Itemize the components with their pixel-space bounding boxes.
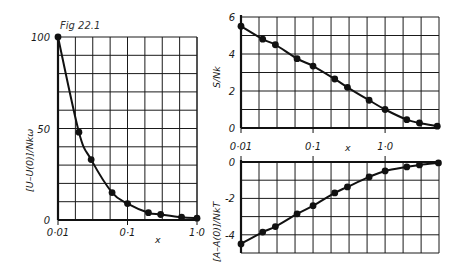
- energy-xlabel: x: [154, 234, 161, 245]
- free-energy-point-3: [294, 210, 301, 217]
- entropy-ytick-label: 6: [229, 12, 235, 23]
- energy-xtick-label: 0·01: [47, 227, 69, 238]
- free-energy-point-6: [344, 184, 351, 191]
- entropy-point-5: [331, 76, 338, 83]
- free-energy-point-5: [331, 190, 338, 197]
- entropy-points: [238, 23, 441, 130]
- entropy-point-3: [294, 55, 301, 62]
- entropy-curve-group: [241, 26, 437, 126]
- entropy-curve: [241, 26, 437, 126]
- entropy-ylabel: S/Nk: [211, 66, 222, 88]
- entropy-ytick-label: 0: [229, 123, 235, 134]
- energy-xtick-label: 1·0: [189, 227, 205, 238]
- energy-ylabel: [U–U(0)]/Nkω: [24, 129, 35, 192]
- free-energy-points: [238, 160, 442, 248]
- free-energy-ytick-label: 0: [229, 157, 235, 168]
- free-energy-point-7: [366, 174, 373, 181]
- entropy-xtick-label: 1·0: [377, 141, 393, 152]
- energy-point-5: [145, 209, 152, 216]
- free-energy-point-4: [310, 202, 317, 209]
- energy-point-2: [88, 156, 95, 163]
- free-energy-curve: [241, 163, 438, 244]
- free-energy-grid: [241, 160, 439, 253]
- entropy-point-11: [434, 123, 441, 130]
- free-energy-curve-group: [241, 163, 438, 244]
- energy-ytick-label: 100: [31, 32, 50, 43]
- entropy-point-9: [403, 116, 410, 123]
- free-energy-point-9: [403, 164, 410, 171]
- energy-point-7: [178, 214, 185, 221]
- free-energy-point-0: [238, 241, 245, 248]
- entropy-xlabel: x: [344, 142, 351, 153]
- free-energy-point-2: [272, 223, 279, 230]
- energy-point-4: [124, 200, 131, 207]
- entropy-point-4: [310, 63, 317, 70]
- entropy-point-8: [382, 106, 389, 113]
- free-energy-ylabel: [A–A(0)]/NkT: [211, 201, 222, 262]
- figure-caption: Fig 22.1: [60, 20, 100, 31]
- entropy-point-7: [366, 97, 373, 104]
- free-energy-point-8: [382, 168, 389, 175]
- free-energy-point-11: [435, 160, 442, 167]
- free-energy-chart: 0-2-4 [A–A(0)]/NkT: [211, 156, 442, 262]
- entropy-chart: 02460·010·11·0 x S/Nk: [211, 12, 441, 153]
- figure: Fig 22.1 0501000·010·11·0 x [U–U(0)]/Nkω…: [0, 0, 464, 272]
- energy-point-1: [76, 129, 83, 136]
- energy-chart: 0501000·010·11·0 x [U–U(0)]/Nkω: [24, 32, 205, 245]
- energy-ytick-label: 0: [44, 215, 50, 226]
- energy-point-0: [55, 34, 62, 41]
- entropy-ytick-label: 2: [229, 86, 235, 97]
- entropy-point-1: [259, 36, 266, 43]
- free-energy-point-10: [416, 162, 423, 169]
- free-energy-ytick-label: -4: [225, 230, 235, 241]
- energy-point-6: [157, 211, 164, 218]
- entropy-xtick-label: 0·01: [230, 141, 252, 152]
- energy-xtick-label: 0·1: [120, 227, 136, 238]
- energy-point-3: [109, 189, 116, 196]
- entropy-ytick-label: 4: [229, 49, 235, 60]
- entropy-point-6: [344, 84, 351, 91]
- free-energy-point-1: [259, 229, 266, 236]
- entropy-point-2: [272, 41, 279, 48]
- entropy-point-0: [238, 23, 245, 30]
- entropy-grid: [241, 15, 439, 128]
- energy-grid: [58, 35, 197, 220]
- free-energy-ytick-label: -2: [225, 193, 235, 204]
- entropy-point-10: [416, 120, 423, 127]
- entropy-xtick-label: 0·1: [305, 141, 321, 152]
- energy-ytick-label: 50: [37, 124, 50, 135]
